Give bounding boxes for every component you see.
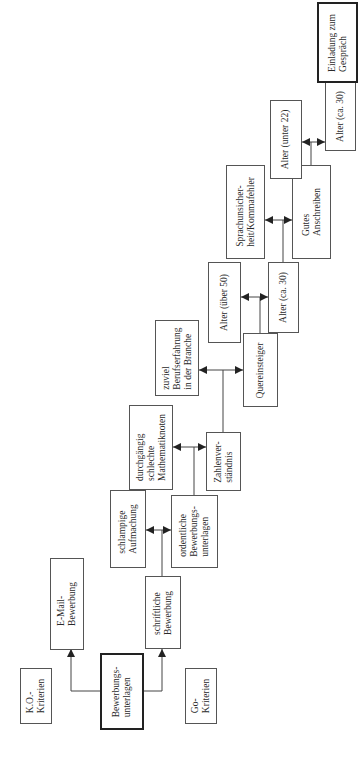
node-label: Quereinsteiger: [255, 342, 266, 398]
arrow-up-icon: [158, 649, 166, 657]
arrow-up-icon: [67, 649, 75, 657]
node-label: Alter (unter 22): [281, 110, 292, 170]
node-beruf: zuviel Berufserfahrung in der Branche: [155, 320, 199, 396]
node-label: K.O.- Kriterien: [25, 679, 47, 713]
node-schriftlich: schriftliche Bewerbung: [145, 576, 181, 649]
node-quer: Quereinsteiger: [243, 333, 278, 407]
node-alter50: Alter (über 50): [208, 262, 241, 343]
arrow-left-icon: [146, 526, 154, 534]
node-label: schriftliche Bewerbung: [152, 591, 174, 635]
arrow-left-icon: [265, 216, 273, 224]
arrow-right-icon: [198, 443, 206, 451]
node-label: schlampige Aufmachung: [117, 504, 139, 554]
node-label: zuviel Berufserfahrung in der Branche: [161, 327, 194, 389]
node-mathe: durchgängig schlechte Mathematiknoten: [129, 405, 173, 490]
edge-line: [71, 649, 100, 691]
node-alter30a: Alter (ca. 30): [268, 262, 299, 333]
node-schlampig: schlampige Aufmachung: [110, 490, 146, 568]
node-label: Go- Kriterien: [190, 679, 212, 713]
node-label: Alter (ca. 30): [335, 91, 346, 142]
node-label: E-Mail- Bewerbung: [56, 582, 78, 626]
node-sprache: Sprachunsicher- heit/Kommafehler: [226, 165, 265, 259]
node-label: Alter (ca. 30): [278, 272, 289, 323]
arrow-left-icon: [199, 366, 207, 374]
node-einladung: Einladung zum Gespräch: [317, 2, 358, 83]
arrow-right-icon: [260, 293, 268, 301]
node-label: ordentliche Bewerbungs- unterlagen: [178, 506, 211, 557]
node-label: Einladung zum Gespräch: [327, 14, 349, 72]
node-label: Zahlenver- ständnis: [213, 441, 235, 482]
node-anschreiben: Gutes Anschreiben: [292, 165, 331, 259]
node-label: Alter (über 50): [219, 274, 230, 331]
node-label: durchgängig schlechte Mathematiknoten: [135, 414, 168, 481]
node-alter22: Alter (unter 22): [270, 100, 302, 179]
arrow-left-icon: [173, 443, 181, 451]
arrow-left-icon: [241, 293, 249, 301]
node-go: Go- Kriterien: [185, 668, 217, 724]
arrow-right-icon: [235, 366, 243, 374]
arrow-left-icon: [302, 138, 310, 146]
node-alter30b: Alter (ca. 30): [325, 82, 356, 151]
node-label: Bewerbungs- unterlagen: [111, 666, 133, 717]
node-email: E-Mail- Bewerbung: [50, 558, 84, 650]
edge-line: [143, 649, 162, 691]
arrow-right-icon: [317, 138, 325, 146]
node-ko: K.O.- Kriterien: [20, 668, 52, 724]
node-label: Gutes Anschreiben: [301, 188, 323, 236]
arrow-right-icon: [284, 216, 292, 224]
node-ordentlich: ordentliche Bewerbungs- unterlagen: [171, 495, 218, 568]
node-zahlen: Zahlenver- ständnis: [206, 432, 241, 491]
node-unterlagen: Bewerbungs- unterlagen: [100, 653, 144, 730]
node-label: Sprachunsicher- heit/Kommafehler: [235, 177, 257, 247]
arrow-right-icon: [163, 526, 171, 534]
